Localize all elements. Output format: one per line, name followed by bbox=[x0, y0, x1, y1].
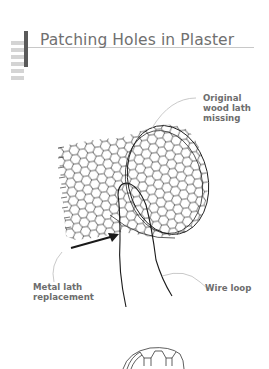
callout-line: wood lath bbox=[203, 103, 251, 113]
patching-illustration bbox=[0, 0, 269, 369]
callout-line: missing bbox=[203, 113, 251, 123]
callout-wire-loop: Wire loop bbox=[205, 283, 251, 293]
secondary-mesh-dome bbox=[123, 348, 184, 369]
callout-original-wood-lath: Original wood lath missing bbox=[203, 93, 251, 123]
callout-line: replacement bbox=[33, 292, 94, 302]
callout-line: Metal lath bbox=[33, 282, 94, 292]
callout-metal-lath: Metal lath replacement bbox=[33, 282, 94, 302]
callout-line: Original bbox=[203, 93, 251, 103]
callout-line: Wire loop bbox=[205, 283, 251, 293]
